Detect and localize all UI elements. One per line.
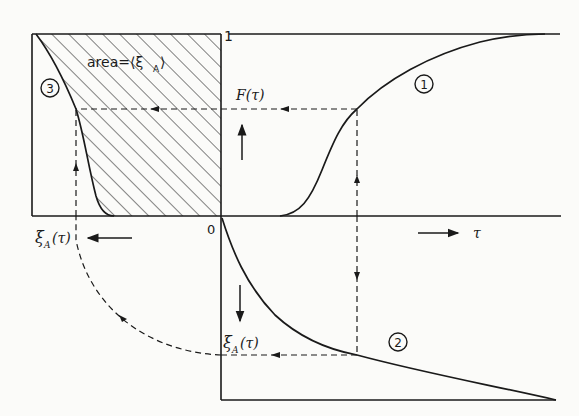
curve-2-marker: 2 [389,333,407,351]
curve-1-marker: 1 [415,75,433,93]
svg-text:area=⟨ξ: area=⟨ξ [87,54,143,70]
curve-1 [280,34,545,216]
svg-text:A: A [153,64,160,74]
curve-3-marker: 3 [41,79,59,97]
svg-text:2: 2 [394,336,402,350]
F-tau-label: F(τ) [235,87,264,103]
origin-label: 0 [207,222,215,237]
dashed-transfer-arc [76,216,221,355]
xi-label-bottom: ξ A (τ) [223,333,259,355]
unity-label: 1 [224,28,233,44]
svg-text:(τ): (τ) [240,335,259,351]
svg-text:A: A [43,240,51,250]
svg-text:3: 3 [46,82,54,96]
tau-label: τ [473,225,481,241]
svg-text:⟩: ⟩ [160,54,165,70]
svg-text:A: A [231,345,239,355]
svg-text:1: 1 [420,78,428,92]
diagram-canvas: 1 0 area=⟨ξ A ⟩ F(τ) ξ A (τ) ξ A (τ) τ 1… [0,0,579,416]
xi-label-left: ξ A (τ) [35,228,71,250]
svg-text:(τ): (τ) [52,230,71,246]
curve-2 [222,218,556,400]
